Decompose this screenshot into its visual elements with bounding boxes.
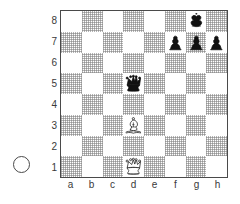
chess-board[interactable] [60, 10, 228, 178]
square-d1[interactable] [123, 156, 144, 177]
square-c6[interactable] [103, 53, 124, 74]
square-a8[interactable] [61, 11, 82, 32]
rank-label-2: 2 [44, 136, 57, 157]
square-b1[interactable] [82, 156, 103, 177]
square-h5[interactable] [206, 73, 227, 94]
square-h8[interactable] [206, 11, 227, 32]
square-c2[interactable] [103, 136, 124, 157]
square-f1[interactable] [165, 156, 186, 177]
square-d4[interactable] [123, 94, 144, 115]
file-label-e: e [144, 180, 165, 196]
square-e5[interactable] [144, 73, 165, 94]
rank-label-4: 4 [44, 94, 57, 115]
square-c5[interactable] [103, 73, 124, 94]
square-f7[interactable] [165, 32, 186, 53]
square-f2[interactable] [165, 136, 186, 157]
square-d5[interactable] [123, 73, 144, 94]
black-queen-icon[interactable] [123, 73, 144, 94]
side-to-move-indicator [13, 156, 30, 173]
square-b6[interactable] [82, 53, 103, 74]
rank-label-8: 8 [44, 10, 57, 31]
square-g2[interactable] [186, 136, 207, 157]
file-label-a: a [60, 180, 81, 196]
square-h1[interactable] [206, 156, 227, 177]
square-a6[interactable] [61, 53, 82, 74]
rank-label-3: 3 [44, 115, 57, 136]
rank-label-6: 6 [44, 52, 57, 73]
square-g4[interactable] [186, 94, 207, 115]
black-king-icon[interactable] [186, 11, 207, 32]
square-e8[interactable] [144, 11, 165, 32]
square-f3[interactable] [165, 115, 186, 136]
rank-label-1: 1 [44, 157, 57, 178]
square-h7[interactable] [206, 32, 227, 53]
square-b4[interactable] [82, 94, 103, 115]
square-c1[interactable] [103, 156, 124, 177]
rank-label-5: 5 [44, 73, 57, 94]
square-d3[interactable] [123, 115, 144, 136]
square-c7[interactable] [103, 32, 124, 53]
file-label-b: b [81, 180, 102, 196]
file-label-c: c [102, 180, 123, 196]
square-g8[interactable] [186, 11, 207, 32]
white-bishop-icon[interactable] [123, 115, 144, 136]
square-e2[interactable] [144, 136, 165, 157]
square-f6[interactable] [165, 53, 186, 74]
square-e3[interactable] [144, 115, 165, 136]
square-b3[interactable] [82, 115, 103, 136]
square-c4[interactable] [103, 94, 124, 115]
square-d6[interactable] [123, 53, 144, 74]
square-c8[interactable] [103, 11, 124, 32]
square-b8[interactable] [82, 11, 103, 32]
file-label-d: d [123, 180, 144, 196]
square-a5[interactable] [61, 73, 82, 94]
square-e7[interactable] [144, 32, 165, 53]
rank-label-column: 8 7 6 5 4 3 2 1 [44, 10, 57, 178]
square-b2[interactable] [82, 136, 103, 157]
square-h4[interactable] [206, 94, 227, 115]
square-h3[interactable] [206, 115, 227, 136]
square-g7[interactable] [186, 32, 207, 53]
square-g1[interactable] [186, 156, 207, 177]
square-e6[interactable] [144, 53, 165, 74]
black-pawn-icon[interactable] [165, 32, 186, 53]
file-label-h: h [207, 180, 228, 196]
square-e4[interactable] [144, 94, 165, 115]
square-g5[interactable] [186, 73, 207, 94]
square-h2[interactable] [206, 136, 227, 157]
square-b5[interactable] [82, 73, 103, 94]
square-f8[interactable] [165, 11, 186, 32]
square-g6[interactable] [186, 53, 207, 74]
square-a1[interactable] [61, 156, 82, 177]
square-a7[interactable] [61, 32, 82, 53]
rank-label-7: 7 [44, 31, 57, 52]
black-pawn-icon[interactable] [186, 32, 207, 53]
square-f5[interactable] [165, 73, 186, 94]
black-pawn-icon[interactable] [206, 32, 227, 53]
square-d7[interactable] [123, 32, 144, 53]
file-label-g: g [186, 180, 207, 196]
square-g3[interactable] [186, 115, 207, 136]
square-a4[interactable] [61, 94, 82, 115]
square-b7[interactable] [82, 32, 103, 53]
square-c3[interactable] [103, 115, 124, 136]
square-a3[interactable] [61, 115, 82, 136]
chess-diagram: 8 7 6 5 4 3 2 1 a b c d e f g h [0, 0, 240, 204]
square-d2[interactable] [123, 136, 144, 157]
white-queen-icon[interactable] [123, 156, 144, 177]
square-e1[interactable] [144, 156, 165, 177]
square-a2[interactable] [61, 136, 82, 157]
square-d8[interactable] [123, 11, 144, 32]
file-label-row: a b c d e f g h [60, 180, 228, 196]
square-h6[interactable] [206, 53, 227, 74]
square-f4[interactable] [165, 94, 186, 115]
file-label-f: f [165, 180, 186, 196]
